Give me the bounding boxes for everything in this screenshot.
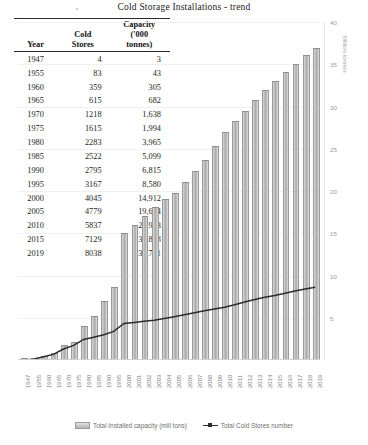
legend-label-capacity: Total Installed capacity (mill tons) [93,422,187,429]
y-axis-tick-label: 5 [330,314,333,321]
x-axis-tick-label: 2014 [267,375,273,388]
line-swatch-icon [203,423,218,428]
x-axis-tick-label: 2006 [187,375,193,388]
x-axis-tick-label: 2016 [287,375,293,388]
x-axis-tick-label: 2000 [126,375,132,388]
plot-area [18,22,320,360]
y-axis-tick-label: 15 [330,230,337,237]
page-title: Cold Storage Installations - trend [0,2,368,12]
x-axis-tick-label: 2002 [146,375,152,388]
y-axis-tick-label: 20 [330,188,337,195]
chart-legend: Total Installed capacity (mill tons) Tot… [0,416,368,434]
legend-label-cold-stores: Total Cold Stores number [221,422,293,429]
x-axis-labels: 1947195519601965197019751980198519901995… [18,362,320,410]
x-axis-tick-label: 2013 [257,375,263,388]
screenshot-root: Cold Storage Installations - trend Year … [0,0,368,445]
x-axis-tick-label: 2008 [207,375,213,388]
x-axis-tick-label: 2017 [297,375,303,388]
x-axis-tick-label: 2001 [136,375,142,388]
x-axis-tick-label: 1955 [36,375,42,388]
x-axis-tick-label: 1995 [116,375,122,388]
legend-item-capacity: Total Installed capacity (mill tons) [75,422,187,429]
x-axis-tick-label: 1965 [56,375,62,388]
y-axis-tick-label: 40 [330,19,337,26]
x-axis-tick-label: 1970 [66,375,72,388]
x-axis-tick-label: 2012 [247,375,253,388]
y-axis-title: Million tonnes [342,36,348,73]
chart: 510152025303540 Million tonnes [18,22,340,360]
bar-swatch-icon [75,422,90,429]
x-axis-tick-label: 2015 [277,375,283,388]
x-axis-tick-label: 1960 [46,375,52,388]
x-axis-tick-label: 1985 [96,375,102,388]
y-axis-tick-label: 35 [330,61,337,68]
x-axis-tick-label: 2003 [156,375,162,388]
x-axis-tick-label: 2010 [227,375,233,388]
x-axis-tick-label: 2019 [317,375,323,388]
y-axis-tick-label: 25 [330,145,337,152]
x-axis-tick-label: 2011 [237,375,243,388]
x-axis-tick-label: 1990 [106,375,112,388]
legend-item-cold-stores: Total Cold Stores number [203,422,293,429]
x-axis-tick-label: 2004 [166,375,172,388]
x-axis-tick-label: 2009 [217,375,223,388]
y-axis-tick-label: 30 [330,103,337,110]
line-series [18,22,320,360]
x-axis-tick-label: 1947 [25,375,31,388]
x-axis-line [18,359,320,360]
x-axis-tick-label: 1980 [86,375,92,388]
x-axis-tick-label: 2007 [197,375,203,388]
x-axis-tick-label: 1975 [76,375,82,388]
y-axis-right: 510152025303540 Million tonnes [324,22,358,360]
y-axis-line [324,22,325,360]
x-axis-tick-label: 2005 [176,375,182,388]
y-axis-tick-label: 10 [330,272,337,279]
x-axis-tick-label: 2018 [307,375,313,388]
